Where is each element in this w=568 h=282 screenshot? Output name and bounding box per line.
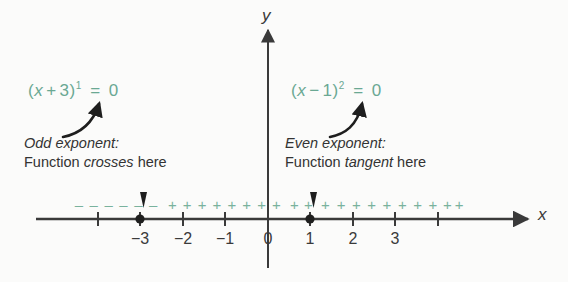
sign-mark-plus-2: + (198, 196, 207, 213)
x-tick-label-neg1: −1 (216, 230, 234, 248)
sign-mark-plus-3: + (213, 196, 222, 213)
sign-mark-minus-4: – (134, 196, 142, 213)
sign-mark-plus-8: + (290, 196, 299, 213)
sign-mark-plus-1: + (183, 196, 192, 213)
sign-mark-minus-1: – (90, 196, 98, 213)
sign-mark-minus-0: – (75, 196, 83, 213)
sign-mark-plus-6: + (257, 196, 266, 213)
sign-mark-minus-3: – (119, 196, 127, 213)
x-tick-label-pos3: 3 (391, 230, 400, 248)
sign-mark-plus-0: + (168, 196, 177, 213)
sign-mark-plus-18: + (443, 196, 452, 213)
zero-dot-neg3 (135, 214, 144, 223)
zero-dot-pos1 (305, 214, 314, 223)
sign-mark-plus-14: + (383, 196, 392, 213)
sign-mark-plus-5: + (242, 196, 251, 213)
sign-mark-plus-4: + (227, 196, 236, 213)
x-tick-label-pos1: 1 (306, 230, 315, 248)
sign-mark-plus-9: + (304, 196, 313, 213)
callout-arrow-right (330, 104, 362, 137)
sign-mark-plus-7: + (272, 196, 281, 213)
x-tick-label-neg3: −3 (131, 230, 149, 248)
sign-mark-plus-11: + (337, 196, 346, 213)
sign-mark-plus-15: + (398, 196, 407, 213)
sign-mark-minus-5: – (149, 196, 157, 213)
sign-mark-minus-2: – (104, 196, 112, 213)
sign-mark-plus-19: + (455, 196, 464, 213)
x-tick-label-neg2: −2 (174, 230, 192, 248)
sign-mark-plus-13: + (367, 196, 376, 213)
x-tick-label-pos2: 2 (349, 230, 358, 248)
sign-mark-plus-12: + (352, 196, 361, 213)
sign-mark-plus-10: + (321, 196, 330, 213)
callout-arrow-left (63, 104, 99, 137)
x-tick-label-zero: 0 (264, 230, 273, 248)
sign-mark-plus-16: + (413, 196, 422, 213)
sign-mark-plus-17: + (429, 196, 438, 213)
sign-chart-figure: (x+3)1=0 (x−1)2=0 Odd exponent: Function… (0, 0, 568, 282)
axes-overlay (0, 0, 568, 282)
